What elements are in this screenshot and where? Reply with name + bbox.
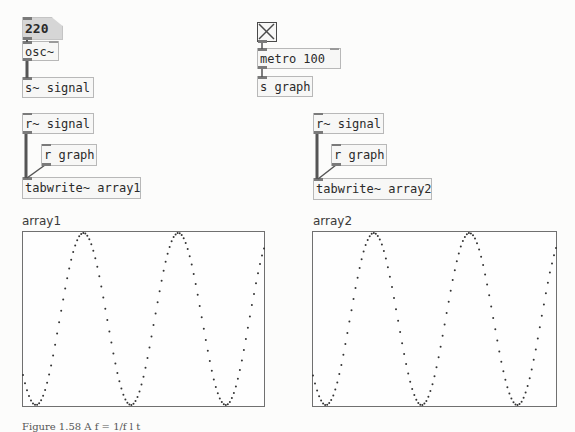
- tabwrite-array1-object[interactable]: tabwrite~ array1: [22, 177, 141, 199]
- receive-signal-label: r~ signal: [25, 117, 90, 131]
- toggle-metro-on[interactable]: [257, 22, 277, 42]
- array1-label: array1: [22, 214, 61, 228]
- tabwrite-label: tabwrite~ array1: [25, 181, 141, 195]
- number-box-frequency[interactable]: 220: [22, 17, 63, 40]
- send-graph-label: s graph: [260, 80, 311, 94]
- tabwrite-array1-inlet[interactable]: [23, 177, 32, 180]
- send-graph-object[interactable]: s graph: [257, 76, 313, 97]
- send-graph-inlet[interactable]: [258, 76, 267, 79]
- receive-signal-object-left[interactable]: r~ signal: [22, 113, 94, 134]
- metro-left-inlet[interactable]: [258, 48, 267, 51]
- send-signal-object[interactable]: s~ signal: [22, 77, 94, 98]
- osc-right-inlet[interactable]: [49, 41, 58, 43]
- metro-object[interactable]: metro 100: [257, 48, 341, 69]
- tabwrite-array2-object[interactable]: tabwrite~ array2: [313, 178, 432, 200]
- figure-caption: Figure 1.58 A f = 1/f l t: [22, 421, 140, 432]
- tabwrite-label: tabwrite~ array2: [316, 182, 432, 196]
- array1-graph[interactable]: [22, 231, 265, 407]
- number-box-value: 220: [25, 21, 48, 36]
- send-signal-inlet[interactable]: [23, 77, 32, 80]
- receive-graph-object-left[interactable]: r graph: [41, 144, 97, 166]
- send-signal-label: s~ signal: [25, 81, 90, 95]
- array2-label: array2: [313, 214, 352, 228]
- osc-left-inlet[interactable]: [23, 41, 32, 44]
- metro-label: metro 100: [260, 52, 325, 66]
- receive-signal-object-right[interactable]: r~ signal: [313, 113, 384, 134]
- receive-signal-label: r~ signal: [316, 117, 381, 131]
- toggle-x-icon: [258, 23, 275, 40]
- receive-graph-object-right[interactable]: r graph: [331, 144, 387, 166]
- osc-label: osc~: [25, 45, 54, 59]
- tabwrite-array2-inlet[interactable]: [314, 178, 323, 181]
- osc-object[interactable]: osc~: [22, 41, 59, 61]
- receive-graph-label: r graph: [334, 148, 385, 162]
- metro-right-inlet[interactable]: [330, 48, 339, 50]
- array2-graph[interactable]: [312, 231, 557, 407]
- receive-graph-label: r graph: [44, 148, 95, 162]
- number-box-inlet[interactable]: [23, 17, 32, 20]
